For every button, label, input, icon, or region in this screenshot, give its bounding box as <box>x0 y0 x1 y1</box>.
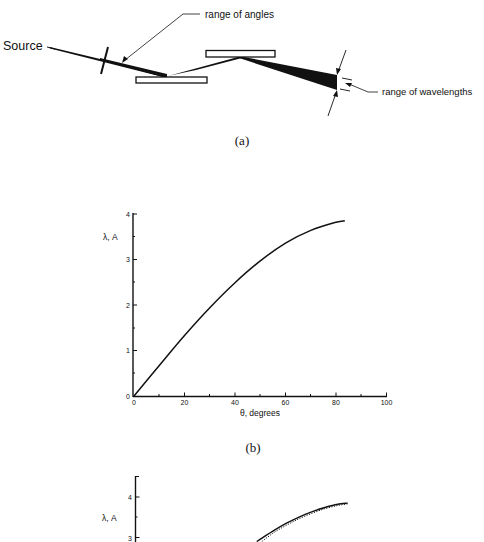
chart-b-x-ticks <box>159 393 387 397</box>
chart-c: 4 3 λ, A <box>102 476 348 542</box>
chart-c-y-label: λ, A <box>102 513 117 523</box>
svg-text:1: 1 <box>126 347 130 354</box>
range-of-wavelengths-label: range of wavelengths <box>382 86 473 97</box>
svg-text:40: 40 <box>231 399 239 406</box>
svg-text:20: 20 <box>181 399 189 406</box>
beam-to-crystal-1 <box>100 58 167 78</box>
crystal-1 <box>136 77 207 83</box>
wavelength-tick-top <box>342 78 352 80</box>
beam-incoming <box>50 47 167 78</box>
range-of-angles-label: range of angles <box>205 9 274 20</box>
range-of-wavelengths-leader <box>349 84 378 92</box>
chart-b-y-tick-labels: 4 3 2 1 0 <box>126 211 130 400</box>
wavelength-arrowhead-bottom <box>333 90 338 97</box>
wavelength-arrow-bottom <box>328 93 336 116</box>
chart-c-y-tick-labels: 4 3 <box>128 494 132 542</box>
chart-b: 4 3 2 1 0 0 20 40 60 80 100 λ, A <box>103 211 392 455</box>
chart-c-dotted-curve <box>262 504 348 542</box>
range-of-angles-leader <box>125 14 200 60</box>
svg-text:60: 60 <box>282 399 290 406</box>
svg-text:0: 0 <box>126 393 130 400</box>
svg-text:100: 100 <box>381 399 393 406</box>
diagram-a: Source range of angles range of waveleng… <box>3 9 473 148</box>
svg-text:4: 4 <box>128 494 132 501</box>
svg-text:3: 3 <box>126 256 130 263</box>
svg-text:2: 2 <box>126 302 130 309</box>
svg-text:4: 4 <box>126 211 130 218</box>
chart-b-curve <box>134 221 345 396</box>
svg-text:3: 3 <box>128 535 132 542</box>
crystal-2 <box>206 51 275 58</box>
chart-c-solid-curve <box>257 503 348 541</box>
caption-b: (b) <box>245 440 260 455</box>
wavelength-arrowhead-top <box>336 68 341 75</box>
svg-text:0: 0 <box>132 399 136 406</box>
source-label: Source <box>3 39 43 53</box>
chart-b-x-label: θ, degrees <box>240 408 280 418</box>
svg-text:80: 80 <box>332 399 340 406</box>
caption-a: (a) <box>235 133 249 148</box>
beam-exit <box>236 57 337 90</box>
range-of-angles-arrowhead <box>122 56 128 63</box>
beam-crystal-1-to-2 <box>163 57 242 77</box>
range-of-wavelengths-arrowhead <box>345 83 352 87</box>
wavelength-tick-bottom <box>340 89 350 91</box>
chart-b-y-label: λ, A <box>103 232 118 242</box>
chart-b-x-tick-labels: 0 20 40 60 80 100 <box>132 399 392 406</box>
figure-canvas: Source range of angles range of waveleng… <box>0 0 484 542</box>
